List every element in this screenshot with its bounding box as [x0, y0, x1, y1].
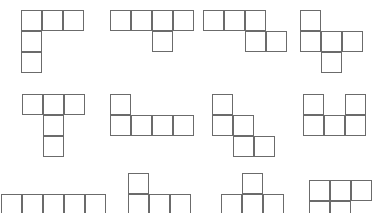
polyomino-t-pentomino[interactable] — [22, 94, 85, 157]
polyomino-cell — [245, 10, 266, 31]
polyomino-cell — [342, 31, 363, 52]
polyomino-body — [110, 10, 194, 52]
polyomino-cell — [203, 10, 224, 31]
polyomino-cell — [22, 194, 43, 213]
polyomino-cell — [345, 115, 366, 136]
polyomino-cell — [1, 194, 22, 213]
polyomino-cell — [21, 10, 42, 31]
polyomino-body — [221, 173, 284, 213]
polyomino-p-pentomino[interactable] — [309, 180, 372, 213]
polyomino-cell — [110, 10, 131, 31]
polyomino-body — [110, 94, 194, 136]
polyomino-cell — [212, 115, 233, 136]
polyomino-cell — [330, 180, 351, 201]
polyomino-cell — [131, 10, 152, 31]
polyomino-cell — [173, 115, 194, 136]
polyomino-body — [300, 10, 363, 73]
polyomino-cell — [300, 31, 321, 52]
polyomino-cell — [303, 115, 324, 136]
polyomino-cell — [233, 115, 254, 136]
polyomino-body — [22, 94, 85, 157]
polyomino-cell — [43, 115, 64, 136]
polyomino-cell — [110, 94, 131, 115]
polyomino-cell — [300, 10, 321, 31]
polyomino-cell — [254, 136, 275, 157]
polyomino-cell — [224, 10, 245, 31]
polyomino-l-pentomino[interactable] — [110, 94, 194, 136]
polyomino-cell — [221, 194, 242, 213]
polyomino-cell — [128, 194, 149, 213]
polyomino-cell — [321, 52, 342, 73]
polyomino-cell — [131, 115, 152, 136]
polyomino-cell — [63, 10, 84, 31]
polyomino-cell — [170, 194, 191, 213]
polyomino-body — [303, 94, 366, 136]
polyomino-cell — [242, 173, 263, 194]
polyomino-cell — [149, 194, 170, 213]
polyomino-cell — [266, 31, 287, 52]
polyomino-cell — [64, 94, 85, 115]
polyomino-u-pentomino[interactable] — [303, 94, 366, 136]
polyomino-cell — [324, 115, 345, 136]
polyomino-cell — [128, 173, 149, 194]
polyomino-f-pentomino[interactable] — [300, 10, 363, 73]
polyomino-cell — [212, 94, 233, 115]
polyomino-cell — [21, 52, 42, 73]
polyomino-v-pentomino[interactable] — [21, 10, 84, 73]
pentomino-sheet-canvas — [0, 0, 372, 213]
polyomino-cell — [43, 194, 64, 213]
polyomino-body — [203, 10, 287, 52]
polyomino-cell — [152, 31, 173, 52]
polyomino-cell — [321, 31, 342, 52]
polyomino-cell — [303, 94, 324, 115]
polyomino-cell — [330, 201, 351, 213]
polyomino-cell — [152, 10, 173, 31]
polyomino-plus-pentomino[interactable] — [221, 173, 284, 213]
polyomino-body — [128, 173, 191, 213]
polyomino-cell — [152, 115, 173, 136]
polyomino-cell — [21, 31, 42, 52]
polyomino-i-pentomino[interactable] — [1, 194, 106, 213]
polyomino-body — [1, 194, 106, 213]
polyomino-cell — [242, 194, 263, 213]
polyomino-n-pentomino-variant[interactable] — [128, 173, 191, 213]
polyomino-cell — [110, 115, 131, 136]
polyomino-body — [21, 10, 84, 73]
polyomino-cell — [345, 94, 366, 115]
polyomino-cell — [85, 194, 106, 213]
polyomino-cell — [233, 136, 254, 157]
polyomino-cell — [64, 194, 85, 213]
polyomino-cell — [263, 194, 284, 213]
polyomino-n-pentomino[interactable] — [203, 10, 287, 52]
polyomino-body — [212, 94, 275, 157]
polyomino-cell — [22, 94, 43, 115]
polyomino-body — [309, 180, 372, 213]
polyomino-y-pentomino[interactable] — [110, 10, 194, 52]
polyomino-cell — [42, 10, 63, 31]
polyomino-cell — [309, 180, 330, 201]
polyomino-cell — [245, 31, 266, 52]
polyomino-cell — [43, 136, 64, 157]
polyomino-cell — [43, 94, 64, 115]
polyomino-cell — [309, 201, 330, 213]
polyomino-w-pentomino[interactable] — [212, 94, 275, 157]
polyomino-cell — [173, 10, 194, 31]
polyomino-cell — [351, 180, 372, 201]
